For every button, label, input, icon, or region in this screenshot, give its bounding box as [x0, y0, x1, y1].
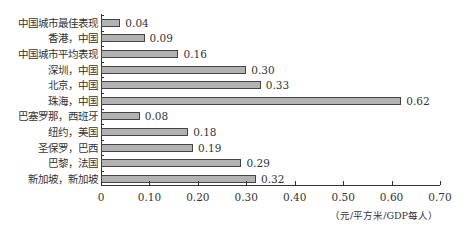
category-label: 北京，中国 [48, 79, 98, 91]
y-tick [101, 124, 104, 125]
value-label: 0.29 [246, 157, 269, 169]
x-tick-label: 0.50 [331, 191, 354, 203]
y-tick [101, 109, 104, 110]
category-label: 珠海，中国 [48, 95, 98, 107]
bar [101, 112, 140, 120]
bar [101, 81, 261, 89]
value-label: 0.08 [145, 110, 168, 122]
x-axis-unit-label: （元/平方米/GDP每人） [330, 208, 438, 222]
y-tick [101, 62, 104, 63]
y-tick [101, 93, 104, 94]
value-label: 0.18 [193, 126, 216, 138]
category-label: 巴黎，法国 [48, 157, 98, 169]
category-label: 深圳，中国 [48, 64, 98, 76]
y-tick [101, 46, 104, 47]
x-tick-label: 0.40 [283, 191, 306, 203]
category-label: 巴塞罗那，西班牙 [18, 110, 98, 122]
bar [101, 144, 193, 152]
x-tick [392, 181, 393, 185]
y-tick [101, 15, 104, 16]
x-tick-label: 0 [98, 191, 105, 203]
x-tick-label: 0.70 [428, 191, 451, 203]
x-axis-line [101, 185, 440, 186]
bar [101, 50, 178, 58]
value-label: 0.19 [198, 142, 221, 154]
x-tick [149, 181, 150, 185]
x-tick [440, 181, 441, 185]
bar [101, 19, 120, 27]
category-label: 中国城市平均表现 [18, 48, 98, 60]
x-tick-label: 0.20 [186, 191, 209, 203]
value-label: 0.62 [406, 95, 429, 107]
value-label: 0.33 [266, 79, 289, 91]
value-label: 0.30 [251, 64, 274, 76]
x-tick-label: 0.10 [138, 191, 161, 203]
y-tick [101, 31, 104, 32]
value-label: 0.04 [125, 17, 148, 29]
y-tick [101, 171, 104, 172]
category-label: 香港，中国 [48, 32, 98, 44]
category-label: 新加坡，新加坡 [28, 173, 98, 185]
value-label: 0.32 [261, 173, 284, 185]
x-tick-label: 0.60 [380, 191, 403, 203]
x-tick [295, 181, 296, 185]
bar [101, 159, 241, 167]
category-label: 纽约，美国 [48, 126, 98, 138]
y-tick [101, 77, 104, 78]
bar [101, 175, 256, 183]
category-label: 中国城市最佳表现 [18, 17, 98, 29]
y-tick [101, 155, 104, 156]
bar [101, 66, 246, 74]
x-tick [246, 181, 247, 185]
value-label: 0.16 [183, 48, 206, 60]
x-tick [101, 181, 102, 185]
y-tick [101, 140, 104, 141]
value-label: 0.09 [150, 32, 173, 44]
bar [101, 34, 145, 42]
category-label: 圣保罗，巴西 [38, 142, 98, 154]
bar [101, 97, 401, 105]
x-tick [343, 181, 344, 185]
bar [101, 128, 188, 136]
x-tick-label: 0.30 [235, 191, 258, 203]
x-tick [198, 181, 199, 185]
horizontal-bar-chart: 中国城市最佳表现0.04香港，中国0.09中国城市平均表现0.16深圳，中国0.… [0, 0, 462, 227]
